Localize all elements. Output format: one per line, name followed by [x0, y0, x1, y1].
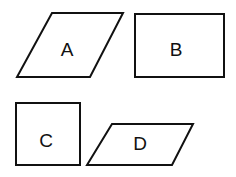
label-d: D	[133, 133, 147, 154]
shape-b: B	[135, 14, 224, 77]
label-b: B	[170, 39, 183, 60]
label-c: C	[39, 130, 53, 151]
label-a: A	[61, 39, 74, 60]
shape-c: C	[16, 103, 80, 165]
shapes-diagram: A B C D	[0, 0, 236, 177]
shape-d: D	[87, 124, 193, 165]
shape-a: A	[17, 13, 123, 77]
